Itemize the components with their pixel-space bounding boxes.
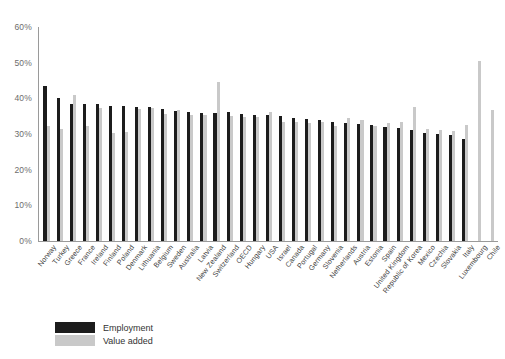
y-axis-tick-label: 0% (19, 236, 32, 246)
bar-value-added (243, 117, 246, 241)
legend-swatch (55, 322, 95, 333)
bar-value-added (413, 107, 416, 241)
bar-value-added (360, 120, 363, 241)
bar-group (393, 27, 406, 241)
legend-item: Employment (55, 322, 153, 333)
bar-group (145, 27, 158, 241)
y-axis-tick-label: 20% (14, 165, 32, 175)
bar-value-added (112, 133, 115, 241)
bar-group (432, 27, 445, 241)
bar-group (354, 27, 367, 241)
bar-group (171, 27, 184, 241)
bar-value-added (478, 61, 481, 241)
bar-group (105, 27, 118, 241)
bar-group (249, 27, 262, 241)
bar-value-added (308, 123, 311, 241)
bar-group (262, 27, 275, 241)
legend-label: Value added (103, 336, 153, 346)
y-axis-tick-label: 50% (14, 58, 32, 68)
bar-value-added (465, 125, 468, 241)
bar-value-added (334, 126, 337, 241)
legend-swatch (55, 335, 95, 346)
bar-value-added (387, 123, 390, 241)
bar-group (367, 27, 380, 241)
x-axis-line (38, 241, 498, 242)
bar-value-added (452, 131, 455, 241)
bar-group (197, 27, 210, 241)
bar-group (288, 27, 301, 241)
bar-group (132, 27, 145, 241)
bar-value-added (400, 122, 403, 241)
bar-group (118, 27, 131, 241)
bar-group (66, 27, 79, 241)
bar-group (380, 27, 393, 241)
bar-group (459, 27, 472, 241)
legend-item: Value added (55, 335, 153, 346)
bar-value-added (269, 112, 272, 241)
bar-group (341, 27, 354, 241)
bar-group (40, 27, 53, 241)
bar-value-added (491, 110, 494, 241)
bar-group (302, 27, 315, 241)
bar-value-added (282, 122, 285, 241)
bar-value-added (164, 114, 167, 241)
bar-group (79, 27, 92, 241)
legend-label: Employment (103, 323, 153, 333)
bar-group (158, 27, 171, 241)
chart-legend: EmploymentValue added (55, 322, 153, 346)
bar-value-added (125, 132, 128, 241)
bar-group (184, 27, 197, 241)
bar-group (445, 27, 458, 241)
bar-value-added (73, 95, 76, 241)
x-axis-label: Chile (485, 243, 502, 262)
bar-chart: 0%10%20%30%40%50%60% NorwayTurkeyGreeceF… (0, 0, 505, 359)
y-axis-tick-label: 40% (14, 93, 32, 103)
bar-group (315, 27, 328, 241)
bar-value-added (439, 130, 442, 241)
bar-group (419, 27, 432, 241)
bar-value-added (256, 117, 259, 241)
bar-group (223, 27, 236, 241)
bar-value-added (47, 126, 50, 241)
bar-group (485, 27, 498, 241)
bar-value-added (177, 110, 180, 241)
bar-value-added (347, 118, 350, 241)
bar-group (328, 27, 341, 241)
bar-value-added (99, 108, 102, 241)
bar-value-added (426, 129, 429, 241)
y-axis-tick-label: 60% (14, 22, 32, 32)
bar-value-added (86, 126, 89, 241)
bar-value-added (138, 109, 141, 241)
bar-group (92, 27, 105, 241)
bar-group (53, 27, 66, 241)
bar-group (406, 27, 419, 241)
bar-group (210, 27, 223, 241)
bar-group (275, 27, 288, 241)
bar-group (472, 27, 485, 241)
bar-group (236, 27, 249, 241)
bar-value-added (151, 108, 154, 241)
bar-value-added (373, 126, 376, 241)
bar-value-added (217, 82, 220, 241)
y-axis-tick-label: 10% (14, 200, 32, 210)
bar-value-added (321, 122, 324, 241)
bar-value-added (295, 122, 298, 241)
bar-value-added (203, 115, 206, 241)
y-axis-line (38, 27, 39, 241)
y-axis-tick-label: 30% (14, 129, 32, 139)
bar-series-container (40, 27, 498, 241)
bar-value-added (60, 129, 63, 241)
x-axis-category-labels: NorwayTurkeyGreeceFranceIrelandFinlandPo… (40, 243, 498, 323)
bar-value-added (230, 116, 233, 241)
bar-value-added (190, 115, 193, 241)
